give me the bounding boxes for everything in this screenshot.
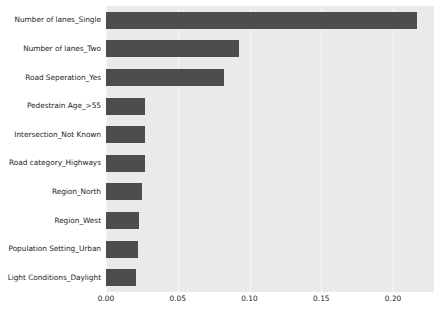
y-axis-tick-labels: Number of lanes_SingleNumber of lanes_Tw…: [0, 6, 101, 292]
gridline-vertical: [393, 6, 394, 292]
gridline-vertical: [321, 6, 322, 292]
y-axis-tick-label: Road Seperation_Yes: [1, 73, 101, 82]
y-axis-tick-label: Region_West: [1, 216, 101, 225]
y-axis-tick-label: Number of lanes_Two: [1, 44, 101, 53]
x-axis-tick-label: 0.10: [228, 294, 272, 304]
bar: [106, 12, 417, 29]
x-axis-tick-label: 0.20: [371, 294, 415, 304]
y-axis-tick-label: Population Setting_Urban: [1, 244, 101, 253]
bar: [106, 155, 145, 172]
bar: [106, 126, 145, 143]
plot-area: [106, 6, 434, 292]
bar: [106, 69, 224, 86]
x-axis-tick-label: 0.15: [299, 294, 343, 304]
y-axis-tick-label: Pedestrain Age_>55: [1, 101, 101, 110]
bar-chart-figure: Number of lanes_SingleNumber of lanes_Tw…: [0, 0, 442, 319]
gridline-vertical: [250, 6, 251, 292]
bar: [106, 212, 139, 229]
bar: [106, 98, 145, 115]
y-axis-tick-label: Light Conditions_Daylight: [1, 273, 101, 282]
bar: [106, 40, 239, 57]
x-axis-tick-label: 0.00: [84, 294, 128, 304]
y-axis-tick-label: Region_North: [1, 187, 101, 196]
y-axis-tick-label: Road category_Highways: [1, 158, 101, 167]
y-axis-tick-label: Number of lanes_Single: [1, 15, 101, 24]
bar: [106, 183, 142, 200]
y-axis-tick-label: Intersection_Not Known: [1, 130, 101, 139]
bar: [106, 269, 136, 286]
x-axis-tick-label: 0.05: [156, 294, 200, 304]
x-axis-tick-labels: 0.000.050.100.150.20: [0, 294, 442, 310]
bar: [106, 241, 138, 258]
